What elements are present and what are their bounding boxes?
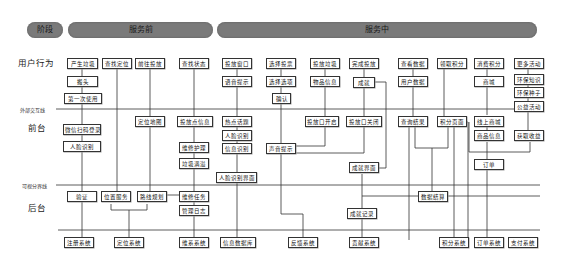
action-box: 查找定位 <box>102 58 132 69</box>
row-label-back-stage: 后台 <box>28 201 46 213</box>
front-box: 定位地图 <box>135 116 165 127</box>
action-box: 确认 <box>272 93 291 104</box>
phase-before-service: 服务前 <box>68 22 213 38</box>
action-box: 消费积分 <box>474 58 504 69</box>
front-box: 声音提示 <box>266 143 296 154</box>
system-box: 维系系统 <box>179 237 209 248</box>
front-box: 投放口开启 <box>305 116 339 127</box>
action-box: 语音提示 <box>222 76 252 87</box>
front-box: 投放点信息 <box>177 116 213 127</box>
phase-during-service: 服务中 <box>217 22 537 38</box>
back-box: 维修任务 <box>179 191 209 202</box>
action-box: 物品信息 <box>310 76 340 87</box>
front-box: 人脸识别界面 <box>216 172 257 183</box>
phase-stage-label: 阶段 <box>27 22 63 38</box>
front-box: 成就界面 <box>349 162 379 173</box>
front-box: 商品信息 <box>474 130 504 141</box>
system-box: 积分系统 <box>439 237 469 248</box>
action-box: 查找状态 <box>179 58 209 69</box>
service-blueprint: 阶段 服务前 服务中 用户行为 外部交互线 前台 可视分界线 后台 产生垃圾 搬… <box>0 0 562 268</box>
action-box: 用户数据 <box>398 76 428 87</box>
row-label-user-behavior: 用户行为 <box>18 56 54 68</box>
action-box: 投放窗口 <box>222 58 252 69</box>
system-box: 信息数据库 <box>220 237 256 248</box>
front-box: 热点话题 <box>222 116 252 127</box>
action-box: 领取积分 <box>437 58 467 69</box>
back-box: 管理日志 <box>179 205 209 216</box>
action-box: 更多活动 <box>514 58 544 69</box>
front-box: 线上商城 <box>474 116 504 127</box>
action-box: 成就 <box>353 77 375 88</box>
back-box: 位置服务 <box>101 191 131 202</box>
action-box: 完成投放 <box>349 58 379 69</box>
action-box: 前往投放 <box>135 58 165 69</box>
system-box: 注册系统 <box>64 237 94 248</box>
front-box: 订单 <box>474 159 504 170</box>
action-box: 查看数据 <box>398 58 428 69</box>
front-box: 查询结果 <box>398 116 428 127</box>
back-box: 数据结算 <box>418 191 448 202</box>
system-box: 定位系统 <box>114 237 144 248</box>
front-box: 垃圾满溢 <box>179 158 209 169</box>
action-box: 选择投票 <box>266 58 296 69</box>
back-box: 验证 <box>67 191 97 202</box>
action-box: 投放垃圾 <box>310 58 340 69</box>
separator-label-external: 外部交互线 <box>20 106 45 113</box>
action-box: 环保知识 <box>514 74 544 85</box>
action-box: 产生垃圾 <box>67 58 98 69</box>
action-box: 第一次使用 <box>64 93 102 104</box>
action-box: 商城 <box>474 76 504 87</box>
front-box: 人脸识别 <box>222 130 252 141</box>
front-box: 积分页面 <box>437 116 467 127</box>
front-box: 投放口关闭 <box>346 116 382 127</box>
action-box: 搬头 <box>67 76 98 87</box>
system-box: 贡献系统 <box>349 237 379 248</box>
back-box: 路线规划 <box>137 191 167 202</box>
system-box: 支付系统 <box>508 237 538 248</box>
front-box: 维修护理 <box>179 142 209 153</box>
system-box: 反馈系统 <box>288 237 318 248</box>
action-box: 环保种子 <box>514 87 544 98</box>
front-box: 信息识别 <box>222 143 252 154</box>
front-box: 微信扫码登录 <box>63 124 101 135</box>
system-box: 订单系统 <box>474 237 504 248</box>
back-box: 成就记录 <box>347 208 377 219</box>
action-box: 公益活动 <box>514 101 544 112</box>
front-box: 人脸识别 <box>63 141 101 152</box>
front-box: 获取收益 <box>514 130 544 141</box>
row-label-front-stage: 前台 <box>28 121 46 133</box>
separator-label-visibility: 可视分界线 <box>22 182 47 189</box>
action-box: 选择选项 <box>266 76 296 87</box>
